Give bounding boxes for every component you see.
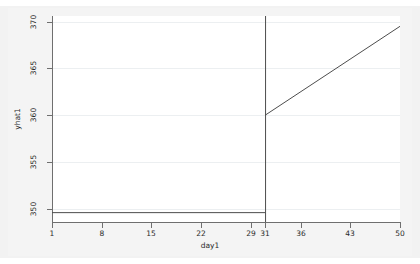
y-tick-label: 355 [22,157,44,167]
x-tick-mark [350,223,351,228]
y-tick-label: 365 [22,63,44,73]
gridline-y [52,115,400,116]
y-tick-label-text: 370 [29,15,38,29]
x-tick-mark [265,223,266,228]
x-tick-mark [52,223,53,228]
y-tick-label-text: 350 [29,202,38,216]
x-tick-label: 29 [246,229,256,238]
x-tick-mark [251,223,252,228]
x-tick-label: 36 [296,229,306,238]
x-tick-mark [400,223,401,228]
gridline-y [52,162,400,163]
x-axis-title: day1 [0,241,420,250]
y-tick-label-text: 355 [29,155,38,169]
y-tick-label: 350 [22,204,44,214]
x-tick-label: 43 [345,229,355,238]
y-axis-title: yhat1 [10,104,24,134]
gridline-y [52,209,400,210]
y-tick-label-text: 360 [29,108,38,122]
x-tick-label: 8 [100,229,105,238]
plot-area [52,16,400,222]
x-tick-label: 50 [395,229,405,238]
x-tick-mark [301,223,302,228]
x-tick-mark [201,223,202,228]
gridline-y [52,68,400,69]
y-tick-label: 360 [22,110,44,120]
y-tick-label: 370 [22,17,44,27]
y-axis-line [52,16,53,222]
y-tick-label-text: 365 [29,61,38,75]
x-tick-label: 1 [50,229,55,238]
x-tick-mark [151,223,152,228]
x-axis-line [52,222,401,223]
gridline-y [52,22,400,23]
x-tick-label: 31 [260,229,270,238]
x-tick-label: 22 [196,229,206,238]
x-tick-mark [102,223,103,228]
x-axis-title-text: day1 [201,241,220,250]
y-axis-title-text: yhat1 [13,108,22,130]
x-tick-label: 15 [146,229,156,238]
